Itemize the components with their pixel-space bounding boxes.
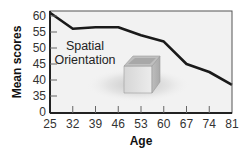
x-tick-label: 74 (203, 117, 217, 131)
annotation-line1: Spatial (66, 39, 104, 53)
x-tick-label: 39 (89, 117, 103, 131)
y-tick-label: 50 (33, 41, 47, 55)
annotation-line2: Orientation (54, 53, 115, 67)
x-tick-label: 32 (66, 117, 80, 131)
y-axis-label: Mean scores (10, 25, 24, 98)
x-tick-label: 25 (43, 117, 57, 131)
y-tick-label: 35 (33, 89, 47, 103)
x-tick-label: 67 (180, 117, 194, 131)
y-tick-label: 60 (33, 9, 47, 23)
x-axis-ticks: 253239465360677481 (43, 106, 239, 131)
y-tick-label: 40 (33, 73, 47, 87)
x-axis-label: Age (130, 134, 153, 148)
x-tick-label: 53 (134, 117, 148, 131)
chart: Spatial Orientation 0354045505560 253239… (0, 0, 249, 163)
x-tick-label: 81 (225, 117, 239, 131)
y-tick-label: 55 (33, 25, 47, 39)
x-tick-label: 60 (157, 117, 171, 131)
y-tick-label: 45 (33, 57, 47, 71)
x-tick-label: 46 (112, 117, 126, 131)
